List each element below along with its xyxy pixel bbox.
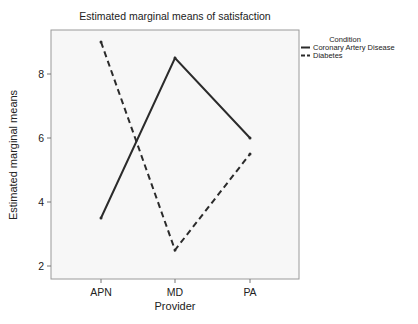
y-tick-label: 6 [38, 132, 44, 144]
y-tick-label: 4 [38, 196, 44, 208]
x-tick-label: APN [90, 286, 112, 298]
data-point [174, 57, 177, 60]
data-point [249, 137, 252, 140]
y-axis-title: Estimated marginal means [7, 89, 19, 220]
interaction-line-chart: Estimated marginal means of satisfaction… [0, 0, 418, 324]
x-axis: APNMDPA [90, 279, 256, 298]
data-point [249, 153, 252, 156]
data-point [174, 249, 177, 252]
data-point [100, 217, 103, 220]
y-tick-label: 2 [38, 260, 44, 272]
plot-area [51, 30, 299, 279]
legend: Condition Coronary Artery DiseaseDiabete… [301, 35, 395, 60]
y-tick-label: 8 [38, 68, 44, 80]
data-point [100, 41, 103, 44]
y-axis: 2468 [38, 68, 51, 272]
chart-title: Estimated marginal means of satisfaction [79, 10, 271, 22]
x-tick-label: MD [167, 286, 184, 298]
legend-label: Diabetes [313, 51, 343, 60]
x-axis-title: Provider [155, 300, 196, 312]
x-tick-label: PA [243, 286, 256, 298]
